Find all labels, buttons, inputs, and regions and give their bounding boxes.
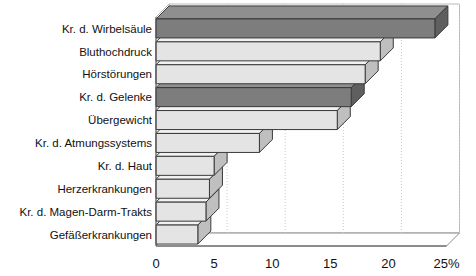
bar-front-face	[156, 65, 365, 84]
bar-front-face	[156, 202, 206, 221]
x-tick-label: 20	[381, 256, 395, 271]
category-label: Kr. d. Magen-Darm-Trakts	[20, 206, 153, 218]
bar-front-face	[156, 42, 380, 61]
bar-front-face	[156, 179, 209, 198]
bar-front-face	[156, 133, 259, 152]
bar-top-face	[156, 6, 448, 19]
category-label: Hörstörungen	[82, 68, 152, 80]
category-label: Kr. d. Haut	[98, 160, 153, 172]
category-label: Bluthochdruck	[79, 46, 152, 58]
category-label: Gefäßerkrankungen	[50, 229, 152, 241]
x-tick-label: 0	[152, 256, 159, 271]
category-axis-labels: Kr. d. WirbelsäuleBluthochdruckHörstörun…	[20, 23, 153, 241]
category-label: Kr. d. Wirbelsäule	[62, 23, 152, 35]
bar-front-face	[156, 156, 214, 175]
x-tick-label: 5	[210, 256, 217, 271]
category-label: Kr. d. Gelenke	[79, 91, 152, 103]
value-axis-tick-labels: 0510152025%	[152, 256, 460, 271]
bar	[156, 6, 448, 38]
x-tick-label: 10	[265, 256, 279, 271]
bar-chart: Kr. d. WirbelsäuleBluthochdruckHörstörun…	[0, 0, 476, 276]
bar-front-face	[156, 111, 337, 130]
category-label: Herzerkrankungen	[57, 183, 152, 195]
bar-front-face	[156, 225, 198, 244]
category-label: Übergewicht	[88, 114, 153, 126]
chart-canvas: Kr. d. WirbelsäuleBluthochdruckHörstörun…	[0, 0, 476, 276]
bar-front-face	[156, 88, 351, 107]
x-tick-label: 15	[323, 256, 337, 271]
category-label: Kr. d. Atmungssystems	[35, 137, 152, 149]
bar-front-face	[156, 19, 435, 38]
x-tick-label: 25%	[433, 256, 459, 271]
